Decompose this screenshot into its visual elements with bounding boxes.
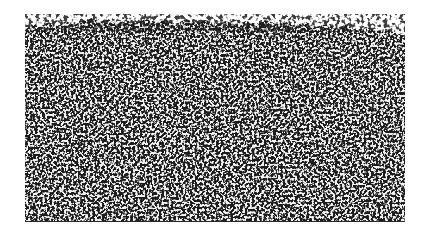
ragged-top-fringe [25,14,405,32]
dendritic-texture-figure [0,0,424,242]
texture-layer [0,0,424,242]
dense-layer [25,16,405,222]
substrate-baseline [25,221,405,222]
